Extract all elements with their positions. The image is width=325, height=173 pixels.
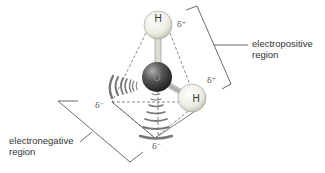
delta-minus-left: δ⁻ [95, 101, 104, 110]
electronegative-region-label: electronegative region [9, 135, 73, 157]
lone-pair-bottom [140, 94, 172, 139]
oxygen-label: O [153, 72, 161, 83]
electropositive-bracket [186, 6, 248, 89]
delta-plus-top: δ⁺ [177, 20, 186, 29]
delta-minus-bottom: δ⁻ [152, 142, 161, 151]
delta-plus-right: δ⁺ [207, 76, 216, 85]
hydrogen-right-label: H [192, 93, 199, 104]
lone-pair-left [110, 76, 137, 98]
hydrogen-top-label: H [154, 13, 161, 24]
electropositive-region-label: electropositive region [252, 38, 313, 60]
bond-top [155, 36, 161, 66]
